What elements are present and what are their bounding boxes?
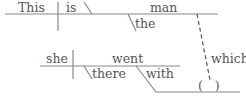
word-there: there (92, 68, 126, 81)
word-the: the (135, 18, 155, 31)
predicate-slash (84, 2, 92, 14)
object-placeholder: ( ) (198, 80, 220, 93)
word-man: man (150, 2, 177, 15)
relative-connector-dashed (197, 14, 210, 80)
word-went: went (112, 53, 143, 66)
adverb-there-line (84, 66, 92, 79)
word-is: is (66, 2, 76, 15)
word-she: she (46, 53, 68, 66)
word-which: which (211, 53, 246, 66)
word-with: with (146, 68, 174, 81)
sentence-diagram: This is man the she went there with whic… (0, 0, 246, 102)
word-this: This (18, 2, 45, 15)
